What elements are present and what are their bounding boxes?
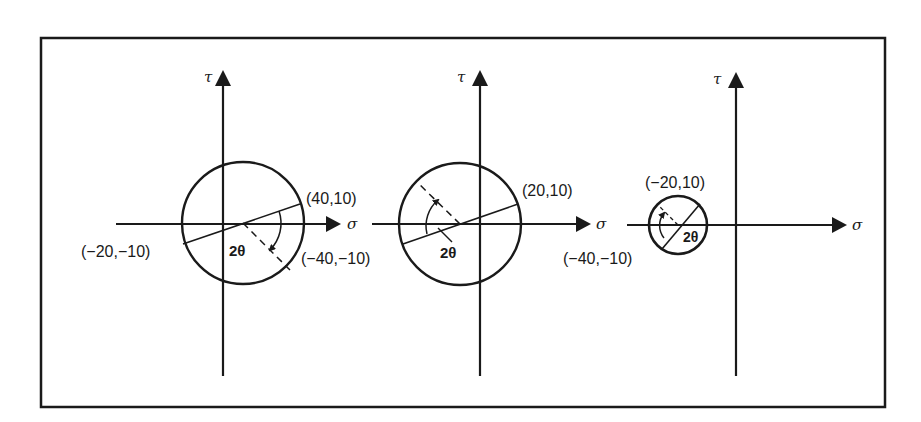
angle-label: 2θ	[440, 244, 456, 261]
angle-label: 2θ	[229, 242, 245, 259]
sigma-label: σ	[852, 216, 863, 234]
sigma-axis-arrow-icon	[832, 217, 847, 233]
sigma-axis-arrow-icon	[576, 216, 591, 232]
tau-axis-arrow-icon	[215, 70, 231, 86]
tau-axis-arrow-icon	[728, 72, 744, 88]
tau-label: τ	[204, 68, 213, 86]
rotation-arc-icon	[426, 200, 438, 234]
principal-dashed-line	[243, 223, 290, 270]
point-label: (−20,−10)	[81, 243, 150, 260]
principal-dashed-line	[418, 183, 460, 224]
rotation-arc-icon	[270, 211, 281, 250]
tau-label: τ	[713, 70, 722, 88]
point-label: (−20,10)	[645, 174, 705, 191]
tau-label: τ	[457, 68, 466, 86]
panel-1: τ σ 2θ (40,10) (−20,−10) (−40,−10)	[81, 68, 370, 376]
point-label: (20,10)	[522, 182, 573, 199]
sigma-label: σ	[596, 215, 607, 233]
tau-axis-arrow-icon	[472, 70, 488, 86]
point-label: (−40,−10)	[301, 250, 370, 267]
sigma-label: σ	[347, 215, 358, 233]
point-label: (40,10)	[306, 190, 357, 207]
point-label: (−40,−10)	[563, 250, 632, 267]
angle-label: 2θ	[683, 229, 698, 245]
mohr-circle-figure: τ σ 2θ (40,10) (−20,−10) (−40,−10) τ σ 2…	[0, 0, 921, 422]
panel-2: τ σ 2θ (20,10)	[372, 68, 607, 376]
panel-3: τ σ 2θ (−20,10) (−40,−10)	[563, 70, 863, 376]
sigma-axis-arrow-icon	[326, 216, 341, 232]
